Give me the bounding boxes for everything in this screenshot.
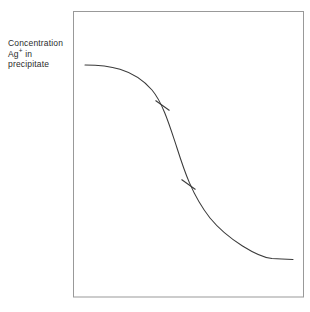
y-axis-label-line-3: precipitate [8, 59, 74, 70]
y-axis-label: Concentration Ag+ in precipitate [8, 38, 74, 70]
y-axis-label-species: Ag [8, 49, 19, 59]
y-axis-label-line-2: Ag+ in [8, 49, 74, 60]
plot-frame [74, 12, 304, 298]
y-axis-label-preposition: in [23, 49, 33, 59]
